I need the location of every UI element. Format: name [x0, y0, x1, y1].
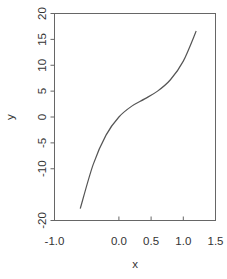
x-tick-label: 0.5: [143, 235, 159, 247]
x-tick-label: 1.0: [175, 235, 191, 247]
data-line: [80, 31, 196, 209]
y-tick-label: 20: [36, 7, 48, 20]
x-tick-label: 1.5: [208, 235, 224, 247]
y-axis: -20-10-505101520: [36, 7, 55, 229]
y-tick-label: 5: [36, 88, 48, 94]
plot-frame: [55, 14, 216, 221]
line-chart: -20-10-505101520 -1.00.00.51.01.5 x y: [0, 0, 227, 279]
x-tick-label: -1.0: [45, 235, 65, 247]
x-axis: -1.00.00.51.01.5: [45, 217, 224, 248]
x-axis-label: x: [132, 258, 138, 270]
y-tick-label: -5: [36, 138, 48, 148]
y-tick-label: 0: [36, 114, 48, 120]
y-tick-label: -10: [36, 160, 48, 177]
y-tick-label: 15: [36, 33, 48, 46]
x-tick-label: 0.0: [111, 235, 127, 247]
y-axis-label: y: [4, 114, 16, 120]
y-tick-label: 10: [36, 59, 48, 72]
y-tick-label: -20: [36, 212, 48, 229]
